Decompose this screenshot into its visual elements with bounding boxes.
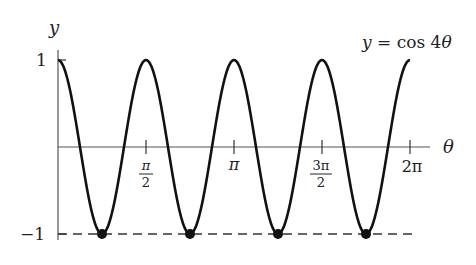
equation-label: y = cos 4θ xyxy=(361,32,452,52)
cosine-graph: y θ 1 −1 π 2 π 3π 2 2π y = cos 4θ xyxy=(0,0,476,265)
equation-variable: θ xyxy=(441,32,451,52)
y-tick-label-neg-one: −1 xyxy=(20,224,45,244)
equation-text: = cos 4 xyxy=(372,32,442,52)
x-tick-label-pi: π xyxy=(228,155,240,174)
x-axis-label: θ xyxy=(443,136,454,157)
x-tick-label-3pi-over-2-den: 2 xyxy=(317,175,325,190)
y-axis-label: y xyxy=(48,17,60,38)
x-tick-label-pi-over-2-num: π xyxy=(141,158,151,173)
minimum-point xyxy=(361,229,371,239)
y-tick-label-one: 1 xyxy=(36,50,47,70)
minimum-point xyxy=(185,229,195,239)
x-tick-label-pi-over-2-den: 2 xyxy=(142,175,150,190)
minimum-point xyxy=(97,229,107,239)
x-tick-label-3pi-over-2-num: 3π xyxy=(313,158,330,173)
x-tick-label-2pi: 2π xyxy=(402,157,423,176)
minimum-point xyxy=(273,229,283,239)
